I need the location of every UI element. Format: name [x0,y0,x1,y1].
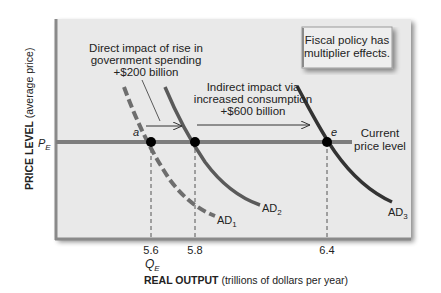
qe-label: QE [145,257,160,273]
point-ad2-intersection [190,137,200,147]
x-tick-6-4: 6.4 [319,244,334,256]
y-axis-title: PRICE LEVEL (average price) [23,48,35,190]
indirect-impact-line-3: +$600 billion [221,105,286,117]
callout-line-2: multiplier effects. [304,47,390,59]
direct-impact-line-2: government spending [91,54,202,66]
price-level-label-line-1: Current [361,127,400,139]
x-axis-title: REAL OUTPUT (trillions of dollars per ye… [144,274,348,286]
pe-label: PE [38,137,51,152]
point-a-label: a [133,126,139,138]
point-e-label: e [331,126,337,138]
point-a [146,137,156,147]
callout-box: Fiscal policy has multiplier effects. [302,27,392,68]
indirect-impact-line-2: increased consumption [194,93,312,105]
callout-line-1: Fiscal policy has [305,34,390,46]
x-tick-5-8: 5.8 [187,244,202,256]
multiplier-diagram: Fiscal policy has multiplier effects. a … [0,0,441,293]
point-e [322,137,332,147]
indirect-impact-line-1: Indirect impact via [207,81,300,93]
x-tick-5-6: 5.6 [143,244,158,256]
direct-impact-line-1: Direct impact of rise in [89,42,203,54]
price-level-label-line-2: price level [354,140,406,152]
direct-impact-line-3: +$200 billion [114,66,179,78]
